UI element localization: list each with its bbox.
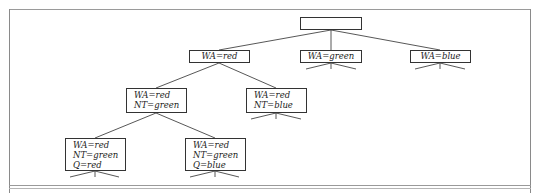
node-label-line-2: NT=green — [73, 150, 125, 160]
node-label-line-2: NT=green — [193, 150, 245, 160]
edge-wa-red-nt-blue — [219, 63, 276, 88]
edge-root-wa-red — [219, 30, 331, 50]
node-label: WA=blue — [411, 51, 470, 61]
node-label: WA=green — [301, 51, 361, 61]
node-wa-red-nt-green: WA=red NT=green — [126, 88, 187, 113]
node-wa-red-nt-green-q-blue: WA=red NT=green Q=blue — [185, 138, 246, 171]
node-label: WA=red — [190, 51, 249, 61]
edge-nt-green-q-blue — [156, 113, 215, 138]
edge-wa-red-nt-green — [156, 63, 219, 88]
node-wa-red: WA=red — [189, 50, 250, 63]
stub-nt-blue — [251, 113, 301, 119]
stub-wa-green — [306, 63, 356, 69]
node-label-line-3: Q=blue — [193, 160, 245, 170]
node-label-line-2: NT=blue — [254, 100, 306, 110]
node-label-line-1: WA=red — [254, 90, 306, 100]
node-wa-green: WA=green — [300, 50, 362, 63]
node-label-line-1: WA=red — [134, 90, 186, 100]
stub-q-red — [70, 171, 119, 177]
node-label-line-2: NT=green — [134, 100, 186, 110]
edge-root-wa-blue — [331, 30, 440, 50]
node-label-line-3: Q=red — [73, 160, 125, 170]
stub-wa-blue — [415, 63, 465, 69]
edge-nt-green-q-red — [95, 113, 156, 138]
node-label-line-1: WA=red — [73, 140, 125, 150]
node-wa-red-nt-green-q-red: WA=red NT=green Q=red — [65, 138, 126, 171]
stub-q-blue — [190, 171, 239, 177]
node-wa-red-nt-blue: WA=red NT=blue — [246, 88, 307, 113]
node-wa-blue: WA=blue — [410, 50, 471, 63]
node-root — [300, 17, 362, 30]
node-label-line-1: WA=red — [193, 140, 245, 150]
